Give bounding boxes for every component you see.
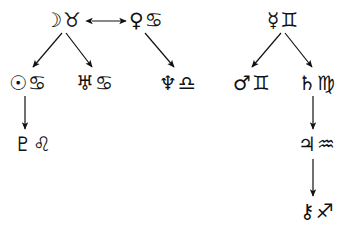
saturn-icon: ♄ xyxy=(298,73,316,93)
astrology-diagram-canvas: ☽ ♉ ♀ ♋ ☿ ♊ ☉ ♋ ♅ ♋ ♆ ♎ ♂ ♊ ♄ ♍ ♇ ♌ ♃ ♒ … xyxy=(0,0,347,233)
cancer-icon: ♋ xyxy=(28,73,46,93)
chiron-icon: ⚷ xyxy=(300,201,315,221)
node-moon-taurus: ☽ ♉ xyxy=(44,10,81,30)
node-uranus-cancer: ♅ ♋ xyxy=(76,73,113,93)
node-pluto-leo: ♇ ♌ xyxy=(14,134,51,154)
virgo-icon: ♍ xyxy=(317,73,335,93)
edge-venus-cancer-to-neptune-libra xyxy=(145,33,174,67)
cancer-icon: ♋ xyxy=(95,73,113,93)
moon-icon: ☽ xyxy=(44,10,62,30)
node-mercury-gemini: ☿ ♊ xyxy=(267,10,298,30)
sun-icon: ☉ xyxy=(9,73,27,93)
mars-icon: ♂ xyxy=(233,73,251,93)
node-mars-gemini: ♂ ♊ xyxy=(233,73,270,93)
edge-mercury-gemini-to-saturn-virgo xyxy=(285,33,312,67)
edge-moon-taurus-to-uranus-cancer xyxy=(66,33,92,67)
sagittarius-icon: ♐ xyxy=(316,201,334,221)
node-chiron-sagittarius: ⚷ ♐ xyxy=(300,201,334,221)
edge-mercury-gemini-to-mars-gemini xyxy=(252,33,281,67)
aquarius-icon: ♒ xyxy=(317,134,335,154)
jupiter-icon: ♃ xyxy=(298,134,316,154)
neptune-icon: ♆ xyxy=(159,73,177,93)
mercury-icon: ☿ xyxy=(267,10,279,30)
uranus-icon: ♅ xyxy=(76,73,94,93)
venus-icon: ♀ xyxy=(129,10,144,30)
gemini-icon: ♊ xyxy=(280,10,298,30)
libra-icon: ♎ xyxy=(178,73,196,93)
node-saturn-virgo: ♄ ♍ xyxy=(298,73,335,93)
cancer-icon: ♋ xyxy=(145,10,163,30)
arrow-layer xyxy=(0,0,347,233)
gemini-icon: ♊ xyxy=(252,73,270,93)
node-neptune-libra: ♆ ♎ xyxy=(159,73,196,93)
taurus-icon: ♉ xyxy=(63,10,81,30)
pluto-icon: ♇ xyxy=(14,134,32,154)
edge-moon-taurus-to-sun-cancer xyxy=(33,33,62,67)
leo-icon: ♌ xyxy=(33,134,51,154)
node-sun-cancer: ☉ ♋ xyxy=(9,73,46,93)
node-venus-cancer: ♀ ♋ xyxy=(129,10,163,30)
node-jupiter-aquarius: ♃ ♒ xyxy=(298,134,335,154)
